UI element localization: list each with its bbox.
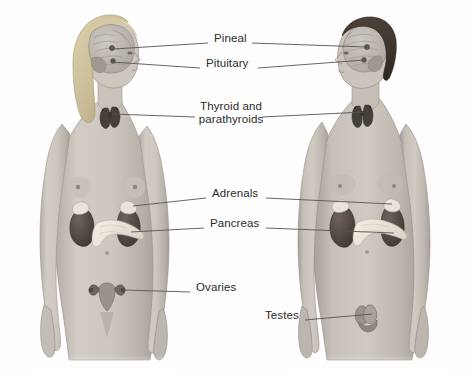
- label-pituitary: Pituitary: [206, 57, 248, 70]
- label-thyroid-and-parathyroids: Thyroid and parathyroids: [196, 100, 266, 126]
- female-eye: [127, 52, 132, 55]
- label-pineal: Pineal: [214, 32, 247, 45]
- male-figure: [290, 17, 450, 376]
- male-nipple-left: [338, 184, 342, 188]
- female-nipple-right: [133, 185, 137, 189]
- female-pineal-gland: [109, 45, 114, 50]
- female-ovary-left: [89, 288, 94, 293]
- label-adrenals: Adrenals: [212, 187, 258, 200]
- label-testes: Testes: [265, 309, 299, 322]
- female-navel: [105, 251, 109, 255]
- endocrine-system-illustration: Pineal Pituitary Thyroid and parathyroid…: [0, 0, 473, 376]
- male-nipple-right: [392, 184, 396, 188]
- label-ovaries: Ovaries: [196, 281, 236, 294]
- male-navel: [365, 250, 369, 254]
- female-nipple-left: [76, 185, 80, 189]
- label-pancreas: Pancreas: [210, 217, 259, 230]
- male-eye: [343, 52, 348, 55]
- female-pituitary-gland: [111, 59, 116, 64]
- female-figure: [30, 15, 180, 376]
